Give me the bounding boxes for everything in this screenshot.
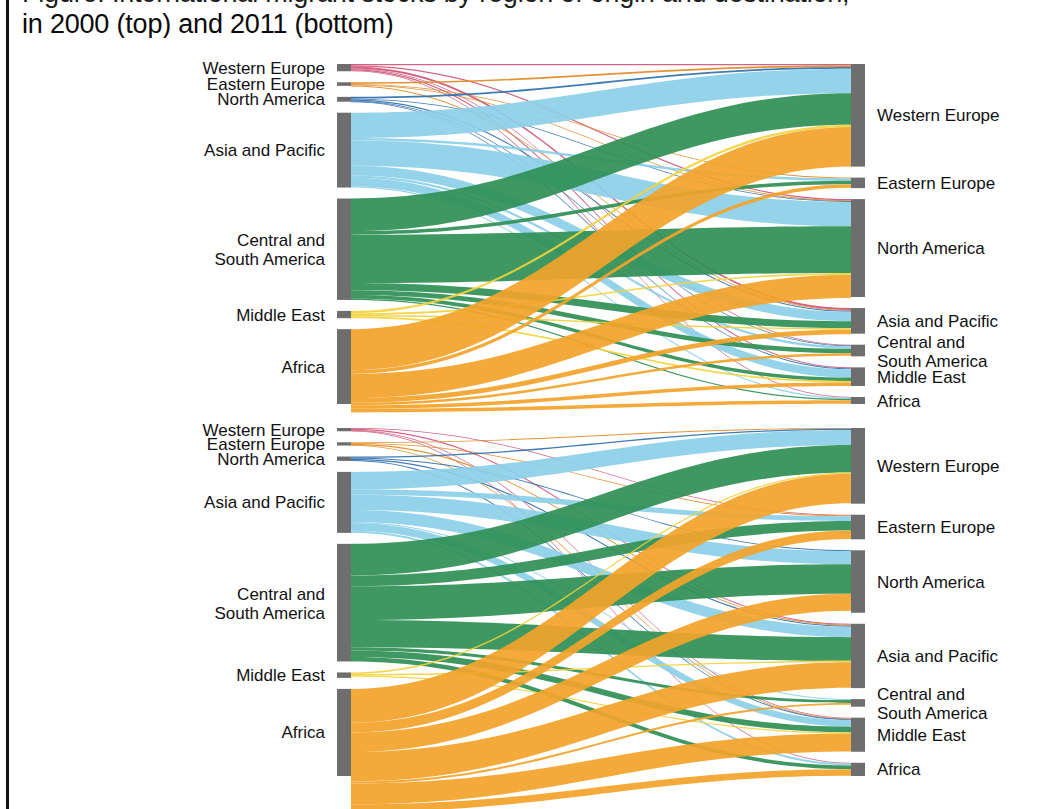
sankey-panel-2000: Western EuropeEastern EuropeNorth Americ… xyxy=(0,52,1050,412)
caption-line-visible: in 2000 (top) and 2011 (bottom) xyxy=(22,9,1022,38)
sankey-node-right-north_america[interactable] xyxy=(851,550,865,612)
sankey-label-right-asia_and_pacific: Asia and Pacific xyxy=(877,312,998,331)
sankey-label-left-middle_east: Middle East xyxy=(236,666,325,685)
sankey-node-left-central_and_south_america[interactable] xyxy=(337,199,351,300)
sankey-node-right-eastern_europe[interactable] xyxy=(851,515,865,540)
sankey-label-right-central_and_south_america: Central and xyxy=(877,333,965,352)
sankey-node-right-africa[interactable] xyxy=(851,397,865,404)
sankey-label-right-western_europe: Western Europe xyxy=(877,106,1000,125)
sankey-node-right-eastern_europe[interactable] xyxy=(851,178,865,188)
sankey-node-right-asia_and_pacific[interactable] xyxy=(851,308,865,334)
sankey-node-right-middle_east[interactable] xyxy=(851,367,865,386)
figure-page: Figure: International migrant stocks by … xyxy=(0,0,1050,809)
sankey-node-left-africa[interactable] xyxy=(337,329,351,404)
sankey-node-left-eastern_europe[interactable] xyxy=(337,442,351,445)
sankey-label-left-asia_and_pacific: Asia and Pacific xyxy=(204,493,325,512)
sankey-node-left-asia_and_pacific[interactable] xyxy=(337,113,351,188)
sankey-label-right-western_europe: Western Europe xyxy=(877,457,1000,476)
sankey-node-left-middle_east[interactable] xyxy=(337,311,351,318)
sankey-node-right-central_and_south_america[interactable] xyxy=(851,699,865,707)
sankey-node-right-asia_and_pacific[interactable] xyxy=(851,624,865,688)
sankey-label-right-middle_east: Middle East xyxy=(877,368,966,387)
sankey-label-left-central_and_south_america: South America xyxy=(214,250,325,269)
sankey-link xyxy=(351,64,851,65)
sankey-node-right-western_europe[interactable] xyxy=(851,64,865,167)
sankey-label-right-eastern_europe: Eastern Europe xyxy=(877,174,995,193)
sankey-label-right-asia_and_pacific: Asia and Pacific xyxy=(877,647,998,666)
sankey-node-right-africa[interactable] xyxy=(851,763,865,776)
sankey-node-left-asia_and_pacific[interactable] xyxy=(337,472,351,533)
sankey-label-right-central_and_south_america: South America xyxy=(877,704,988,723)
sankey-label-left-central_and_south_america: Central and xyxy=(237,231,325,250)
sankey-label-left-africa: Africa xyxy=(282,723,326,742)
sankey-label-right-africa: Africa xyxy=(877,760,921,779)
sankey-node-right-middle_east[interactable] xyxy=(851,718,865,752)
sankey-node-left-north_america[interactable] xyxy=(337,97,351,102)
sankey-label-left-africa: Africa xyxy=(282,358,326,377)
sankey-label-right-north_america: North America xyxy=(877,573,985,592)
sankey-panel-2011: Western EuropeEastern EuropeNorth Americ… xyxy=(0,418,1050,798)
sankey-node-left-central_and_south_america[interactable] xyxy=(337,544,351,662)
sankey-label-right-middle_east: Middle East xyxy=(877,726,966,745)
sankey-node-right-western_europe[interactable] xyxy=(851,428,865,504)
sankey-links xyxy=(351,64,851,412)
sankey-label-left-central_and_south_america: Central and xyxy=(237,585,325,604)
sankey-label-left-asia_and_pacific: Asia and Pacific xyxy=(204,141,325,160)
sankey-links xyxy=(351,428,851,809)
caption-line-cut: Figure: International migrant stocks by … xyxy=(22,0,1022,9)
sankey-node-left-north_america[interactable] xyxy=(337,457,351,461)
sankey-diagram-2011: Western EuropeEastern EuropeNorth Americ… xyxy=(0,418,1050,798)
sankey-node-left-western_europe[interactable] xyxy=(337,428,351,431)
sankey-node-right-central_and_south_america[interactable] xyxy=(851,345,865,357)
sankey-label-right-eastern_europe: Eastern Europe xyxy=(877,518,995,537)
sankey-label-left-north_america: North America xyxy=(217,450,325,469)
sankey-node-left-western_europe[interactable] xyxy=(337,64,351,71)
sankey-label-left-north_america: North America xyxy=(217,90,325,109)
sankey-node-left-africa[interactable] xyxy=(337,689,351,776)
sankey-node-left-middle_east[interactable] xyxy=(337,672,351,677)
sankey-label-right-north_america: North America xyxy=(877,239,985,258)
sankey-diagram-2000: Western EuropeEastern EuropeNorth Americ… xyxy=(0,52,1050,412)
sankey-label-right-central_and_south_america: Central and xyxy=(877,685,965,704)
sankey-label-right-africa: Africa xyxy=(877,392,921,411)
sankey-node-left-eastern_europe[interactable] xyxy=(337,82,351,86)
sankey-node-right-north_america[interactable] xyxy=(851,199,865,297)
sankey-label-left-central_and_south_america: South America xyxy=(214,604,325,623)
sankey-label-left-middle_east: Middle East xyxy=(236,306,325,325)
figure-caption: Figure: International migrant stocks by … xyxy=(22,0,1022,38)
